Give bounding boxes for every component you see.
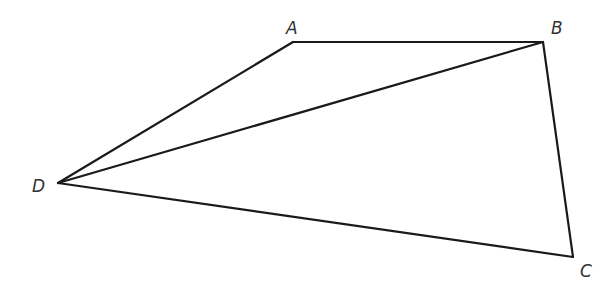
segment-db: [58, 42, 543, 183]
vertex-label-c: C: [580, 263, 592, 280]
vertex-label-d: D: [32, 178, 45, 195]
quadrilateral-figure: [0, 0, 606, 292]
geometry-diagram: ABCD: [0, 0, 606, 292]
vertex-label-a: A: [286, 20, 298, 37]
segment-da: [58, 42, 293, 183]
segment-cd: [58, 183, 573, 257]
segment-bc: [543, 42, 573, 257]
vertex-label-b: B: [551, 20, 563, 37]
